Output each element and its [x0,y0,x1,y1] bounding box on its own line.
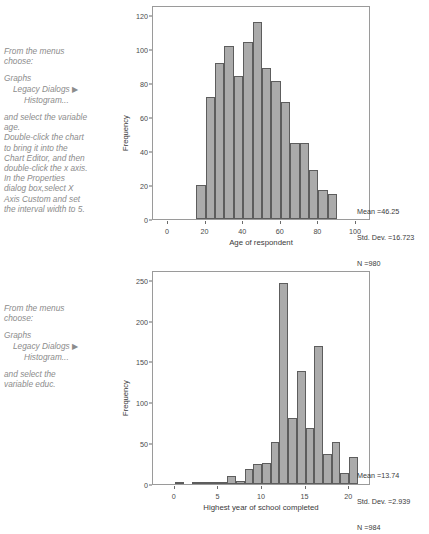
histogram-bar [300,143,309,219]
spacer [4,323,130,330]
menu-label: Legacy Dialogs [13,84,70,94]
instruction-line: choose: [4,313,130,323]
histogram-bar [332,442,341,484]
instruction-body-age: and select the variableage.Double-click … [4,112,130,214]
instruction-line: and select the [4,369,130,379]
x-axis-tick-label: 10 [257,492,265,501]
x-axis-tick-label: 80 [313,227,321,236]
histogram-panel-educ: From the menus choose: Graphs Legacy Dia… [0,261,429,522]
instruction-line: Double-click the chart [4,132,130,142]
histogram-bar [328,194,337,219]
x-axis-tick-mark [305,486,306,489]
histogram-bar [262,68,271,219]
menu-label: Legacy Dialogs [13,341,70,351]
y-axis-tick-mark [149,152,152,153]
histogram-bar [227,476,236,484]
histogram-bar [175,482,184,484]
histogram-bar [192,482,201,484]
bars-educ [153,272,369,484]
menu-item-legacy-dialogs: Legacy Dialogs ▶ [4,84,130,95]
stat-mean: Mean =13.74 [357,472,410,481]
histogram-bar [262,463,271,484]
x-axis-educ: Highest year of school completed 0510152… [152,486,370,510]
histogram-bar [236,481,245,484]
x-axis-tick-mark [355,221,356,224]
x-axis-tick-label: 20 [344,492,352,501]
stats-annotation-educ: Mean =13.74 Std. Dev. =2.939 N =984 [357,455,410,534]
menu-item-legacy-dialogs: Legacy Dialogs ▶ [4,341,130,352]
menu-item-graphs: Graphs [4,330,130,340]
x-axis-tick-label: 60 [276,227,284,236]
x-axis-tick-mark [317,221,318,224]
instruction-line: variable educ. [4,379,130,389]
histogram-bar [279,283,288,484]
instruction-line: From the menus [4,303,130,313]
instruction-line: dialog box,select X [4,183,130,193]
instruction-line: double-click the x axis. [4,163,130,173]
bars-age [153,7,369,219]
y-axis-tick-mark [149,362,152,363]
x-axis-tick-label: 20 [201,227,209,236]
instruction-line: and select the variable [4,112,130,122]
submenu-arrow-icon: ▶ [72,342,78,351]
histogram-bar [210,482,219,484]
stat-std-dev: Std. Dev. =2.939 [357,498,410,507]
x-axis-tick-label: 5 [215,492,219,501]
histogram-bar [281,102,290,219]
histogram-bar [314,346,323,484]
histogram-bar [253,464,262,484]
y-axis-tick-mark [149,403,152,404]
instruction-body-educ: and select thevariable educ. [4,369,130,389]
instruction-line: Axis Custom and set [4,194,130,204]
instruction-line: Chart Editor, and then [4,153,130,163]
x-axis-tick-mark [217,486,218,489]
histogram-bar [218,482,227,484]
y-axis-tick-mark [149,16,152,17]
x-axis-tick-mark [205,221,206,224]
y-axis-educ: 050100150200250 [152,271,153,485]
histogram-bar [196,185,205,219]
submenu-arrow-icon: ▶ [72,85,78,94]
histogram-bar [290,143,299,219]
menu-item-graphs: Graphs [4,73,130,83]
histogram-panel-age: From the menus choose: Graphs Legacy Dia… [0,0,429,261]
instructions-age: From the menus choose: Graphs Legacy Dia… [4,46,130,214]
histogram-bar [215,63,224,219]
spacer [4,66,130,73]
plot-frame-educ [152,271,370,485]
histogram-bar [271,442,280,484]
histogram-bar [288,418,297,484]
stat-mean: Mean =46.25 [357,208,414,217]
stat-std-dev: Std. Dev. =16.723 [357,234,414,243]
x-axis-tick-label: 0 [172,492,176,501]
x-axis-tick-mark [348,486,349,489]
instruction-line: age. [4,122,130,132]
x-axis-tick-label: 40 [238,227,246,236]
x-axis-tick-label: 0 [165,227,169,236]
chart-area-educ: 050100150200250 Highest year of school c… [152,271,370,485]
histogram-bar [309,170,318,219]
plot-frame-age [152,6,370,220]
histogram-bar [297,371,306,484]
y-axis-tick-mark [149,50,152,51]
x-axis-tick-mark [174,486,175,489]
histogram-bar [340,473,349,484]
histogram-bar [234,76,243,219]
y-axis-tick-mark [149,84,152,85]
instruction-line: From the menus [4,46,130,56]
instruction-line: choose: [4,56,130,66]
histogram-bar [306,428,315,484]
histogram-bar [206,97,215,219]
instructions-educ: From the menus choose: Graphs Legacy Dia… [4,303,130,389]
y-axis-tick-mark [149,444,152,445]
histogram-bar [201,482,210,484]
y-axis-tick-mark [149,118,152,119]
y-axis-tick-mark [149,280,152,281]
histogram-bar [224,46,233,219]
x-axis-label-age: Age of respondent [152,238,370,247]
menu-item-histogram: Histogram... [4,95,130,105]
histogram-bar [323,454,332,484]
y-axis-age: 020406080100120 [152,6,153,220]
x-axis-tick-label: 15 [301,492,309,501]
x-axis-tick-mark [167,221,168,224]
